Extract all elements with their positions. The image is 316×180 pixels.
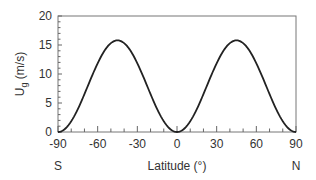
data-line: [58, 40, 296, 132]
x-axis-south-label: S: [54, 159, 62, 173]
x-tick-label: -30: [129, 137, 147, 151]
x-axis-label: Latitude (°): [148, 159, 207, 173]
y-axis-label-unit: (m/s): [13, 52, 27, 83]
y-axis-label: Ug (m/s): [13, 52, 29, 96]
x-tick-label: 0: [174, 137, 181, 151]
x-tick-label: -60: [89, 137, 107, 151]
x-tick-label: -90: [49, 137, 67, 151]
x-tick-labels: -90-60-300306090: [49, 137, 303, 151]
x-axis-north-label: N: [292, 159, 301, 173]
x-tick-label: 30: [210, 137, 224, 151]
y-tick-label: 20: [39, 9, 53, 23]
y-tick-label: 10: [39, 67, 53, 81]
chart: 05101520 -90-60-300306090 Latitude (°) S…: [0, 0, 316, 180]
y-tick-labels: 05101520: [39, 9, 53, 139]
x-tick-label: 90: [289, 137, 303, 151]
x-tick-label: 60: [250, 137, 264, 151]
y-axis-label-main: U: [13, 88, 27, 97]
y-tick-label: 15: [39, 38, 53, 52]
y-tick-label: 5: [45, 96, 52, 110]
